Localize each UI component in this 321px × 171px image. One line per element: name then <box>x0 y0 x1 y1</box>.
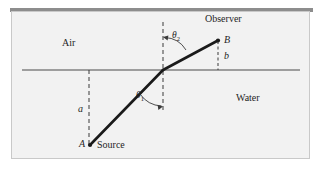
label-theta2: θ2 <box>172 31 180 42</box>
label-air: Air <box>62 38 75 48</box>
label-distance-a: a <box>78 104 83 114</box>
label-source: Source <box>97 140 125 150</box>
label-water: Water <box>236 93 260 103</box>
label-point-b: B <box>224 35 230 45</box>
figure-container: Air Water Observer Source A B a b θ2 θ1 <box>0 0 321 171</box>
label-distance-b: b <box>224 51 229 61</box>
figure-panel <box>11 11 310 159</box>
label-theta1: θ1 <box>136 91 144 102</box>
label-point-a: A <box>79 139 85 149</box>
theta1-subscript: 1 <box>141 95 144 102</box>
label-observer: Observer <box>205 14 242 24</box>
theta2-subscript: 2 <box>177 35 180 42</box>
